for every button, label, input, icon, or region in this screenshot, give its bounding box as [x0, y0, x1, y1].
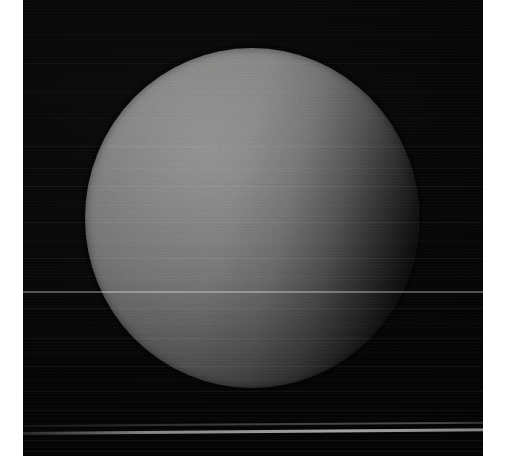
planet-photograph: [23, 0, 483, 456]
sky-vignette: [23, 0, 483, 456]
page-margin-bottom: [0, 456, 506, 476]
page-canvas: [0, 0, 506, 476]
page-margin-right: [483, 0, 506, 476]
page-margin-left: [0, 0, 23, 476]
